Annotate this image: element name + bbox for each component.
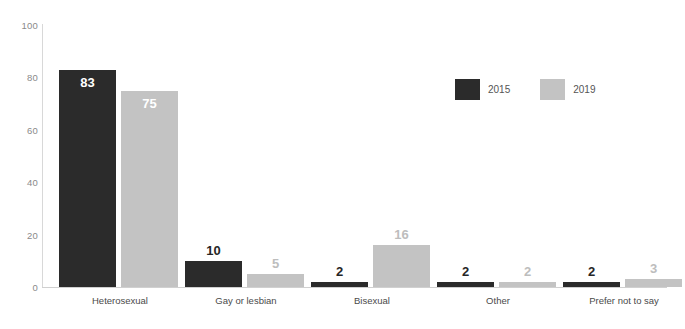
category-label-prefer-not-to-say: Prefer not to say xyxy=(563,295,685,306)
category-label-other: Other xyxy=(437,295,559,306)
y-axis: 100 80 60 40 20 0 xyxy=(0,0,38,329)
legend-label: 2015 xyxy=(488,84,510,95)
bar-group-heterosexual: 83 75 xyxy=(59,25,181,287)
bar-value-label: 5 xyxy=(247,257,304,270)
bar-group-gay-or-lesbian: 10 5 xyxy=(185,25,307,287)
bar-group-bisexual: 2 16 xyxy=(311,25,433,287)
y-tick-label-40: 40 xyxy=(4,177,38,188)
bar-2015-other[interactable]: 2 xyxy=(437,282,494,287)
bar-group-prefer-not-to-say: 2 3 xyxy=(563,25,685,287)
y-tick-label-80: 80 xyxy=(4,72,38,83)
bar-value-label: 2 xyxy=(499,265,556,278)
category-label-bisexual: Bisexual xyxy=(311,295,433,306)
legend-label: 2019 xyxy=(573,84,595,95)
legend-item-2019[interactable]: 2019 xyxy=(540,79,595,100)
y-tick-label-0: 0 xyxy=(4,282,38,293)
category-label-gay-or-lesbian: Gay or lesbian xyxy=(185,295,307,306)
category-label-heterosexual: Heterosexual xyxy=(59,295,181,306)
bar-value-label: 10 xyxy=(185,244,242,257)
bar-value-label: 16 xyxy=(373,228,430,241)
bar-2019-heterosexual[interactable]: 75 xyxy=(121,91,178,288)
legend: 2015 2019 xyxy=(455,79,596,100)
bar-2015-heterosexual[interactable]: 83 xyxy=(59,70,116,288)
bar-value-label: 75 xyxy=(121,97,178,110)
bar-2015-gay-or-lesbian[interactable]: 10 xyxy=(185,261,242,287)
y-tick-label-60: 60 xyxy=(4,124,38,135)
bar-value-label: 2 xyxy=(563,265,620,278)
legend-item-2015[interactable]: 2015 xyxy=(455,79,510,100)
bar-2019-gay-or-lesbian[interactable]: 5 xyxy=(247,274,304,287)
bar-2019-bisexual[interactable]: 16 xyxy=(373,245,430,287)
bar-value-label: 83 xyxy=(59,76,116,89)
y-tick-label-20: 20 xyxy=(4,229,38,240)
bar-value-label: 2 xyxy=(437,265,494,278)
y-tick-label-100: 100 xyxy=(4,20,38,31)
legend-swatch-icon xyxy=(540,79,565,100)
bar-value-label: 3 xyxy=(625,262,682,275)
bar-2019-other[interactable]: 2 xyxy=(499,282,556,287)
x-axis-line xyxy=(42,287,667,288)
bar-2019-prefer-not-to-say[interactable]: 3 xyxy=(625,279,682,287)
bar-value-label: 2 xyxy=(311,265,368,278)
legend-swatch-icon xyxy=(455,79,480,100)
bar-group-other: 2 2 xyxy=(437,25,559,287)
plot-area: 83 75 10 5 2 16 2 xyxy=(42,25,667,287)
bar-2015-prefer-not-to-say[interactable]: 2 xyxy=(563,282,620,287)
bar-2015-bisexual[interactable]: 2 xyxy=(311,282,368,287)
